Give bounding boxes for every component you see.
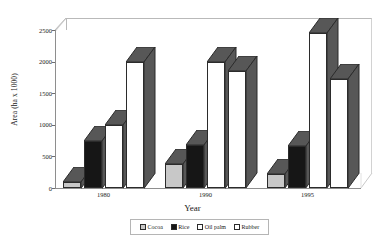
y-tick-mark [52,125,55,126]
bar-oil-palm-1995 [309,33,327,188]
x-tick-label: 1990 [186,191,226,198]
bar-side-face [348,64,361,190]
legend-swatch-icon [140,224,146,230]
bar-side-face [144,47,157,190]
legend-label: Rubber [242,224,260,231]
bar-oil-palm-1990 [207,62,225,188]
bar-rice-1980 [84,141,102,188]
bar-side-face [246,56,259,190]
bar-chart: Area (ha x 1000) 25002000150010005000 19… [0,0,385,250]
bar-rubber-1980 [126,62,144,188]
x-tick-label: 1995 [288,191,328,198]
legend-swatch-icon [171,224,177,230]
bar-cocoa-1995 [267,174,285,188]
y-tick-mark [52,156,55,157]
legend-label: Rice [178,224,189,231]
legend-item-oil-palm: Oil palm [197,224,226,231]
bar-rubber-1990 [228,71,246,188]
legend-item-rubber: Rubber [234,224,259,231]
bar-cocoa-1990 [165,164,183,188]
legend-label: Oil palm [205,224,226,231]
legend-item-cocoa: Cocoa [140,224,163,231]
x-axis-title: Year [0,203,385,213]
y-tick-mark [52,30,55,31]
legend-swatch-icon [234,224,240,230]
bar-rice-1990 [186,145,204,188]
x-tick-label: 1980 [84,191,124,198]
legend-label: Cocoa [148,224,163,231]
bar-oil-palm-1980 [105,125,123,188]
bar-rice-1995 [288,146,306,188]
bar-cocoa-1980 [63,182,81,188]
legend-item-rice: Rice [171,224,190,231]
chart-legend: CocoaRiceOil palmRubber [130,219,269,235]
legend-swatch-icon [197,224,203,230]
bar-rubber-1995 [330,79,348,188]
y-tick-mark [52,62,55,63]
y-tick-mark [52,188,55,189]
y-tick-mark [52,93,55,94]
